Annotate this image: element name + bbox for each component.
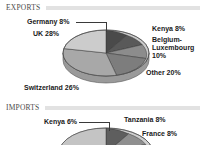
pie-label-france: France 8% [142, 130, 177, 138]
leader-line-kenya-imports-horizontal [79, 122, 110, 123]
pie-label-other: Other 20% [146, 69, 181, 77]
pie-label-uk: UK 28% [33, 30, 59, 38]
section-header-exports: EXPORTS [6, 3, 200, 12]
pie-label-kenya-imports: Kenya 6% [44, 118, 77, 126]
pie-label-belgium-luxembourg: Belgium-Luxembourg 10% [152, 36, 196, 61]
pie-label-tanzania: Tanzania 8% [124, 116, 166, 124]
section-title-imports: IMPORTS [6, 103, 39, 112]
pie-label-germany: Germany 8% [27, 18, 69, 26]
section-header-imports: IMPORTS [6, 103, 200, 112]
pie-label-kenya-exports: Kenya 8% [152, 25, 185, 33]
figure-root: EXPORTS [0, 0, 207, 145]
leader-line-kenya-imports-vertical [109, 122, 110, 131]
header-rule-imports [45, 106, 200, 110]
leader-line-germany-vertical [106, 22, 107, 32]
header-rule-exports [46, 6, 200, 10]
leader-line-germany-horizontal [76, 22, 107, 23]
section-title-exports: EXPORTS [6, 3, 40, 12]
pie-label-switzerland: Switzerland 26% [24, 84, 79, 92]
